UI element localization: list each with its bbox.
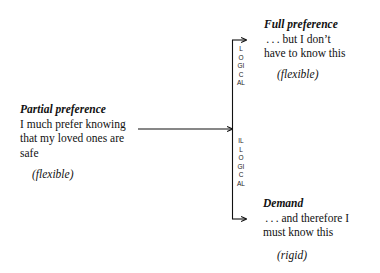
- full-preference-node: Full preference . . . but I don’t have t…: [264, 17, 345, 81]
- demand-text-line: must know this: [263, 225, 349, 240]
- logical-branch-label: LOGICAL: [237, 45, 245, 88]
- demand-text-line: . . . and therefore I: [263, 211, 349, 226]
- partial-preference-text-line: safe: [20, 146, 126, 161]
- partial-preference-qualifier: (flexible): [32, 167, 126, 182]
- full-preference-text-line: have to know this: [264, 46, 345, 61]
- demand-qualifier: (rigid): [277, 248, 349, 263]
- full-preference-text-line: . . . but I don’t: [264, 32, 345, 47]
- full-preference-title: Full preference: [264, 17, 345, 32]
- partial-preference-text-line: I much prefer knowing: [20, 117, 126, 132]
- full-preference-qualifier: (flexible): [277, 67, 345, 82]
- illogical-branch-label: ILLOGICAL: [237, 137, 245, 189]
- partial-preference-text-line: that my loved ones are: [20, 131, 126, 146]
- partial-preference-node: Partial preference I much prefer knowing…: [20, 102, 126, 182]
- demand-title: Demand: [263, 196, 349, 211]
- demand-node: Demand . . . and therefore I must know t…: [263, 196, 349, 262]
- partial-preference-title: Partial preference: [20, 102, 126, 117]
